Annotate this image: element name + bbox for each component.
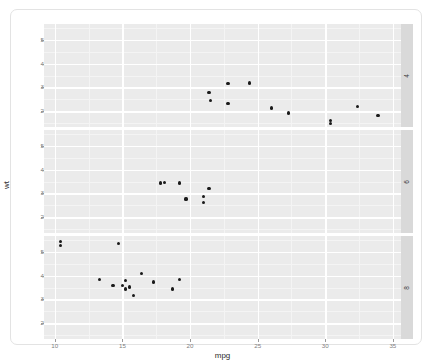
gridline-major-horizontal — [44, 217, 401, 218]
gridline-major-vertical — [325, 236, 326, 339]
data-point — [152, 280, 155, 283]
data-point — [124, 287, 127, 290]
x-axis-tick-mark — [258, 339, 259, 342]
x-axis-tick-label: 20 — [187, 343, 194, 349]
x-axis-tick-label: 15 — [119, 343, 126, 349]
facet-strip-label-8cyl: 8 — [404, 286, 411, 290]
gridline-minor-horizontal — [44, 99, 401, 100]
gridline-minor-horizontal — [44, 288, 401, 289]
data-point — [171, 287, 174, 290]
y-axis-tick-mark — [41, 299, 44, 300]
data-point — [124, 279, 127, 282]
chart-card: 4 6 8 234523452345101520253035 mpg wt — [10, 9, 422, 345]
y-axis-tick-mark — [41, 276, 44, 277]
data-point — [163, 181, 166, 184]
data-point — [287, 111, 290, 114]
gridline-major-vertical — [393, 236, 394, 339]
data-point — [59, 244, 62, 247]
data-point — [159, 181, 162, 184]
data-point — [226, 102, 229, 105]
gridline-minor-horizontal — [44, 123, 401, 124]
data-point — [132, 294, 135, 297]
x-axis-tick-mark — [190, 339, 191, 342]
y-axis-tick-mark — [41, 87, 44, 88]
facet-panel-4cyl — [44, 24, 401, 127]
gridline-major-horizontal — [44, 323, 401, 324]
gridline-major-horizontal — [44, 299, 401, 300]
gridline-major-horizontal — [44, 170, 401, 171]
gridline-major-vertical — [55, 236, 56, 339]
facet-panel-6cyl — [44, 130, 401, 233]
x-axis-tick-label: 30 — [322, 343, 329, 349]
facet-strip-6cyl: 6 — [401, 130, 413, 233]
y-axis-tick-mark — [41, 111, 44, 112]
gridline-major-vertical — [122, 130, 123, 233]
data-point — [207, 91, 210, 94]
facet-strip-label-6cyl: 6 — [404, 180, 411, 184]
x-axis-tick-label: 25 — [254, 343, 261, 349]
y-axis-tick-mark — [41, 252, 44, 253]
gridline-minor-horizontal — [44, 182, 401, 183]
gridline-minor-horizontal — [44, 229, 401, 230]
gridline-major-horizontal — [44, 276, 401, 277]
y-axis-tick-mark — [41, 40, 44, 41]
data-point — [128, 285, 131, 288]
gridline-minor-horizontal — [44, 52, 401, 53]
gridline-major-vertical — [258, 236, 259, 339]
gridline-minor-horizontal — [44, 76, 401, 77]
gridline-major-horizontal — [44, 111, 401, 112]
gridline-major-vertical — [190, 130, 191, 233]
gridline-minor-horizontal — [44, 335, 401, 336]
gridline-major-vertical — [190, 236, 191, 339]
gridline-major-horizontal — [44, 146, 401, 147]
data-point — [202, 201, 205, 204]
gridline-major-horizontal — [44, 87, 401, 88]
gridline-major-vertical — [393, 130, 394, 233]
data-point — [178, 181, 181, 184]
gridline-major-vertical — [55, 130, 56, 233]
data-point — [329, 122, 332, 125]
gridline-major-horizontal — [44, 40, 401, 41]
y-axis-tick-mark — [41, 323, 44, 324]
facet-strip-8cyl: 8 — [401, 236, 413, 339]
facet-panel-8cyl — [44, 236, 401, 339]
data-point — [184, 197, 187, 200]
gridline-major-vertical — [325, 130, 326, 233]
gridline-minor-horizontal — [44, 134, 401, 135]
facet-strip-4cyl: 4 — [401, 24, 413, 127]
gridline-major-vertical — [325, 24, 326, 127]
data-point — [209, 99, 212, 102]
x-axis-tick-mark — [55, 339, 56, 342]
facet-strip-label-4cyl: 4 — [404, 74, 411, 78]
gridline-major-vertical — [190, 24, 191, 127]
gridline-minor-horizontal — [44, 240, 401, 241]
y-axis-label: wt — [3, 181, 11, 189]
x-axis-tick-label: 10 — [51, 343, 58, 349]
data-point — [117, 242, 120, 245]
y-axis-tick-mark — [41, 170, 44, 171]
data-point — [226, 82, 229, 85]
gridline-major-vertical — [55, 24, 56, 127]
gridline-major-horizontal — [44, 193, 401, 194]
data-point — [98, 278, 101, 281]
y-axis-tick-mark — [41, 217, 44, 218]
data-point — [207, 187, 210, 190]
data-point — [248, 81, 251, 84]
gridline-minor-horizontal — [44, 28, 401, 29]
gridline-major-vertical — [122, 24, 123, 127]
data-point — [270, 106, 273, 109]
y-axis-tick-mark — [41, 146, 44, 147]
gridline-major-vertical — [258, 24, 259, 127]
data-point — [178, 278, 181, 281]
x-axis-tick-mark — [393, 339, 394, 342]
data-point — [202, 195, 205, 198]
gridline-major-vertical — [393, 24, 394, 127]
gridline-major-vertical — [258, 130, 259, 233]
x-axis-tick-label: 35 — [389, 343, 396, 349]
gridline-major-horizontal — [44, 64, 401, 65]
data-point — [59, 240, 62, 243]
y-axis-tick-mark — [41, 193, 44, 194]
x-axis-tick-mark — [325, 339, 326, 342]
x-axis-tick-mark — [122, 339, 123, 342]
gridline-minor-horizontal — [44, 158, 401, 159]
